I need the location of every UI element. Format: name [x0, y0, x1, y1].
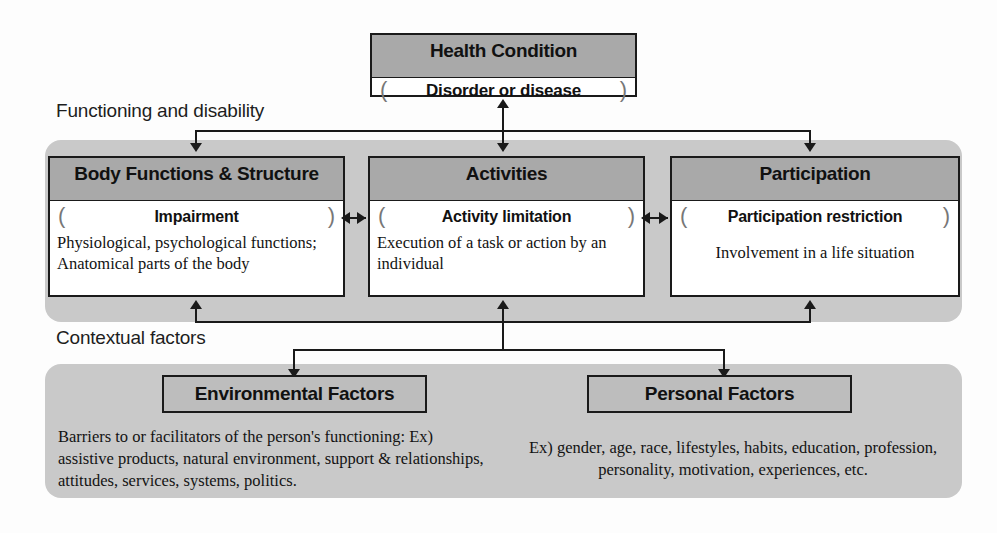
lower-bus-left-arrow	[190, 300, 202, 309]
bracket-right-icon: )	[628, 203, 635, 229]
bracket-left-icon: (	[378, 203, 385, 229]
environmental-factors-box: Environmental Factors	[162, 375, 427, 413]
center-stem-line	[502, 309, 504, 350]
activities-participation-arrow-right	[659, 212, 668, 224]
activity-limitation-qualifier: Activity limitation	[442, 208, 572, 225]
activities-description: Execution of a task or action by an indi…	[370, 230, 643, 280]
activities-box: Activities ( Activity limitation ) Execu…	[368, 156, 645, 297]
participation-description: Involvement in a life situation	[672, 230, 958, 269]
bracket-left-icon: (	[680, 203, 687, 229]
upper-bus-left-arrow	[190, 143, 202, 152]
body-functions-structure-description: Physiological, psychological functions; …	[50, 230, 343, 280]
personal-factors-box: Personal Factors	[587, 375, 852, 413]
body-functions-structure-body: ( Impairment ) Physiological, psychologi…	[50, 201, 343, 280]
bracket-right-icon: )	[328, 203, 335, 229]
contextual-bus-right-drop	[723, 349, 725, 370]
lower-bus-right-rise	[809, 309, 811, 322]
upper-bus-right-drop	[809, 130, 811, 144]
icf-diagram: Functioning and disability Contextual fa…	[0, 0, 997, 533]
body-functions-structure-header: Body Functions & Structure	[50, 158, 343, 201]
contextual-bus-line	[293, 349, 725, 351]
impairment-qualifier-row: ( Impairment )	[50, 201, 343, 230]
participation-restriction-qualifier: Participation restriction	[728, 208, 903, 225]
participation-body: ( Participation restriction ) Involvemen…	[672, 201, 958, 269]
participation-restriction-qualifier-row: ( Participation restriction )	[672, 201, 958, 230]
contextual-factors-caption: Contextual factors	[56, 327, 206, 349]
functioning-disability-caption: Functioning and disability	[56, 100, 264, 122]
activities-header: Activities	[370, 158, 643, 201]
participation-box: Participation ( Participation restrictio…	[670, 156, 960, 297]
body-functions-structure-box: Body Functions & Structure ( Impairment …	[48, 156, 345, 297]
environmental-factors-description: Barriers to or facilitators of the perso…	[58, 426, 490, 492]
center-stem-arrow	[497, 300, 509, 309]
body-activities-arrow-right	[357, 212, 366, 224]
health-condition-qualifier: Disorder or disease	[426, 81, 581, 100]
body-activities-arrow-left	[341, 212, 350, 224]
contextual-bus-left-drop	[293, 349, 295, 370]
activities-participation-arrow-left	[641, 212, 650, 224]
health-condition-header: Health Condition	[372, 35, 635, 78]
bracket-right-icon: )	[943, 203, 950, 229]
personal-factors-description: Ex) gender, age, race, lifestyles, habit…	[518, 437, 948, 481]
lower-bus-right-arrow	[804, 300, 816, 309]
upper-bus-left-drop	[195, 130, 197, 144]
upper-bus-line	[195, 130, 811, 132]
activities-body: ( Activity limitation ) Execution of a t…	[370, 201, 643, 280]
bracket-right-icon: )	[620, 77, 627, 103]
upper-bus-right-arrow	[804, 143, 816, 152]
health-condition-arrow-down	[497, 143, 509, 152]
impairment-qualifier: Impairment	[154, 208, 238, 225]
bracket-left-icon: (	[58, 203, 65, 229]
lower-bus-left-rise	[195, 309, 197, 322]
health-condition-arrow-up	[497, 99, 509, 108]
participation-header: Participation	[672, 158, 958, 201]
bracket-left-icon: (	[380, 77, 387, 103]
health-condition-box: Health Condition ( Disorder or disease )	[370, 33, 637, 97]
activity-limitation-qualifier-row: ( Activity limitation )	[370, 201, 643, 230]
